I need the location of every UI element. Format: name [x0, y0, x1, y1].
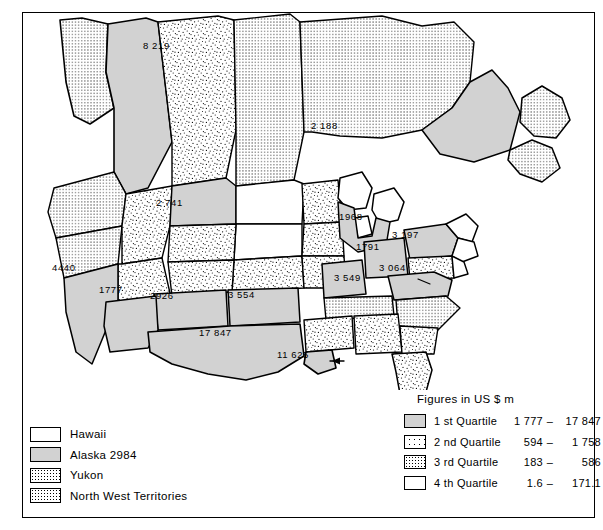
region-saskatchewan-manitoba — [234, 14, 304, 186]
legend-label-quartile-4: 4 th Quartile 1.6 – 171.1 — [434, 477, 601, 489]
quartile-2-name: 2 nd Quartile — [434, 436, 496, 448]
region-nebraska — [234, 224, 302, 260]
quartile-4-low: 1.6 — [496, 477, 543, 489]
legend-swatch-quartile-2 — [404, 435, 426, 449]
legend-swatch-quartile-3 — [404, 455, 426, 469]
legend-swatch-northwest-territories — [30, 488, 61, 503]
quartile-1-high: 17 847 — [557, 415, 601, 427]
quartile-3-low: 183 — [496, 456, 543, 468]
quartile-2-low: 594 — [496, 436, 543, 448]
legend-swatch-hawaii — [30, 427, 61, 442]
region-wyoming — [168, 224, 236, 262]
quartile-1-name: 1 st Quartile — [434, 415, 496, 427]
legend-item-hawaii: Hawaii — [30, 424, 280, 445]
legend-label-quartile-1: 1 st Quartile 1 777 – 17 847 — [434, 415, 601, 427]
map-label-california: 4440 — [52, 262, 76, 273]
region-dakotas — [236, 180, 304, 224]
legend-swatch-quartile-4 — [404, 476, 426, 490]
legend-label-alaska: Alaska 2984 — [70, 449, 137, 461]
region-iowa — [302, 222, 344, 256]
legend-label-yukon: Yukon — [70, 469, 103, 481]
legend-item-quartile-4: 4 th Quartile 1.6 – 171.1 — [404, 473, 594, 494]
legend-item-quartile-1: 1 st Quartile 1 777 – 17 847 — [404, 411, 594, 432]
map-label-quebec: 2 188 — [311, 120, 338, 131]
region-minnesota — [302, 180, 342, 224]
region-kansas — [232, 256, 304, 292]
map-label-michigan: 1968 — [339, 211, 363, 222]
map-label-ohio: 1791 — [356, 241, 380, 252]
legend-swatch-yukon — [30, 468, 61, 483]
legend-swatch-quartile-1 — [404, 414, 426, 428]
legend-units-title: Figures in US $ m — [417, 393, 594, 405]
north-america-map-svg — [22, 12, 595, 390]
region-georgia-coast — [400, 326, 438, 354]
quartile-4-dash: – — [543, 477, 557, 489]
quartile-4-high: 171.1 — [557, 477, 601, 489]
legend-special-regions: Hawaii Alaska 2984 Yukon North West Terr… — [30, 424, 280, 506]
region-maritimes — [508, 140, 560, 182]
region-arkansas-mississippi — [304, 316, 354, 352]
quartile-1-low: 1 777 — [496, 415, 543, 427]
legend-label-quartile-2: 2 nd Quartile 594 – 1 758 — [434, 436, 601, 448]
legend-item-northwest-territories: North West Territories — [30, 486, 280, 507]
legend-label-hawaii: Hawaii — [70, 428, 106, 440]
map-label-new-york: 3 197 — [392, 229, 419, 240]
quartile-4-name: 4 th Quartile — [434, 477, 496, 489]
map-label-texas: 17 847 — [199, 327, 232, 338]
legend-item-alaska: Alaska 2984 — [30, 445, 280, 466]
legend-swatch-alaska — [30, 447, 61, 462]
region-carolinas — [396, 296, 460, 330]
map-label-louisiana: 11 625 — [277, 349, 309, 360]
legend-quartiles: Figures in US $ m 1 st Quartile 1 777 – … — [404, 393, 594, 493]
map-canvas — [22, 12, 595, 390]
region-alabama-georgia — [354, 314, 402, 354]
map-figure: 8 219 2 188 2 741 1968 3 197 1791 3 064 … — [0, 0, 603, 530]
legend-item-quartile-2: 2 nd Quartile 594 – 1 758 — [404, 432, 594, 453]
map-label-montana: 2 741 — [156, 197, 183, 208]
region-florida — [392, 352, 432, 390]
quartile-3-name: 3 rd Quartile — [434, 456, 496, 468]
map-label-british-columbia: 8 219 — [143, 40, 170, 51]
quartile-2-dash: – — [543, 436, 557, 448]
map-label-illinois: 3 549 — [334, 272, 361, 283]
map-label-oklahoma: 3 554 — [228, 289, 255, 300]
region-newfoundland — [520, 86, 570, 138]
map-label-virginia: 3 064 — [379, 262, 406, 273]
quartile-1-dash: – — [543, 415, 557, 427]
quartile-3-dash: – — [543, 456, 557, 468]
quartile-3-high: 586 — [557, 456, 601, 468]
map-label-arizona: 1777 — [99, 284, 123, 295]
map-label-colorado: 2926 — [150, 290, 174, 301]
legend-item-quartile-3: 3 rd Quartile 183 – 586 — [404, 452, 594, 473]
quartile-2-high: 1 758 — [557, 436, 601, 448]
legend-item-yukon: Yukon — [30, 465, 280, 486]
legend-label-quartile-3: 3 rd Quartile 183 – 586 — [434, 456, 601, 468]
legend-label-northwest-territories: North West Territories — [70, 490, 187, 502]
